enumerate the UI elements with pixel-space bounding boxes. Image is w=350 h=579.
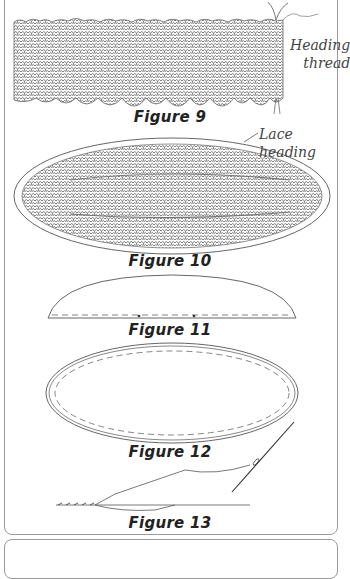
- heading-thread-line2: thread: [290, 54, 350, 72]
- figure-13-drawing: [56, 422, 294, 510]
- lace-heading-label: Lace heading: [259, 125, 344, 161]
- figure-9-caption: Figure 9: [110, 108, 230, 126]
- figure-13-caption: Figure 13: [110, 514, 230, 532]
- figure-11-drawing: [48, 275, 296, 318]
- heading-thread-label: Heading thread: [290, 36, 350, 72]
- figure-9-drawing: [14, 2, 318, 114]
- figure-11-caption: Figure 11: [110, 321, 230, 339]
- figure-10-caption: Figure 10: [110, 252, 230, 270]
- next-panel: [4, 539, 338, 579]
- heading-thread-line1: Heading: [290, 36, 350, 54]
- figure-12-caption: Figure 12: [110, 443, 230, 461]
- figure-12-drawing: [46, 343, 298, 443]
